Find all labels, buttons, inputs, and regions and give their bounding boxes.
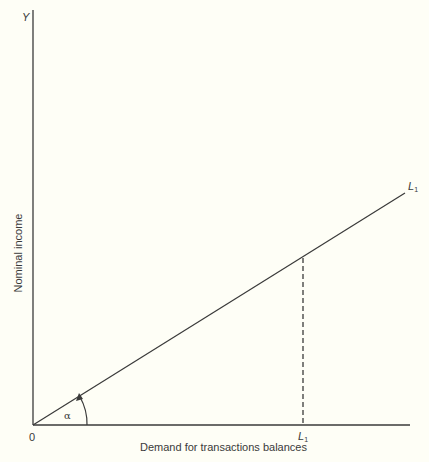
angle-alpha-label: α — [64, 410, 71, 421]
l1-axis-tick-label: L1 — [298, 430, 308, 443]
angle-arc — [80, 397, 87, 425]
diagram-canvas — [0, 0, 429, 462]
x-axis-title: Demand for transactions balances — [140, 441, 307, 453]
y-axis-symbol: Y — [22, 11, 29, 23]
l1-axis-tick-label-sub: 1 — [304, 436, 308, 443]
l1-line-label: L1 — [408, 180, 418, 193]
origin-label: 0 — [29, 431, 35, 443]
l1-line-label-sub: 1 — [414, 186, 418, 193]
l1-line — [33, 193, 405, 425]
y-axis-title: Nominal income — [12, 203, 24, 303]
